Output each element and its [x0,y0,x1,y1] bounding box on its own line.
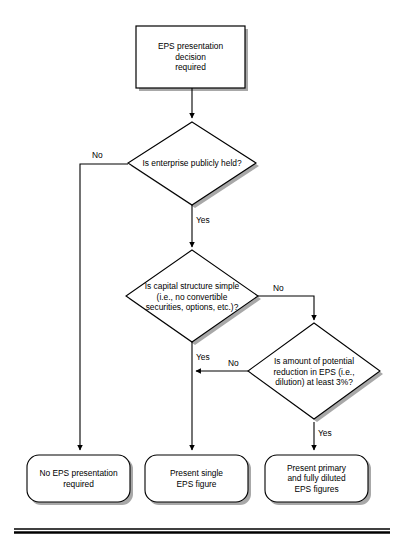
decision-dilution-shape [248,323,380,419]
flowchart-canvas [0,0,402,550]
edge-d2-no-to-d3 [258,296,314,320]
decision-publicly-held-shape [128,122,256,205]
edge-d1-no-to-terminal1 [80,164,128,450]
decision-capital-structure-shape [126,250,258,342]
terminal-no-eps-shape [27,455,130,502]
terminal-primary-diluted-shape [265,455,368,502]
bottom-rule [14,529,390,533]
terminal-single-eps-shape [145,455,248,502]
start-box-shape [136,26,245,88]
